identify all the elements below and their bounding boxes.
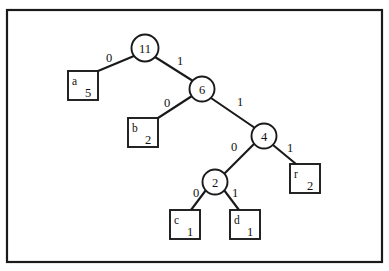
node-label-two: 2 xyxy=(212,176,218,190)
leaf-weight-r: 2 xyxy=(307,179,313,193)
node-label-root: 11 xyxy=(139,42,151,56)
edge-label-six-right: 1 xyxy=(237,95,243,109)
leaf-node-d: d 1 xyxy=(230,210,260,239)
internal-node-six: 6 xyxy=(190,77,215,102)
leaf-weight-b: 2 xyxy=(145,133,151,147)
leaf-weight-c: 1 xyxy=(187,225,193,239)
edge-label-six-left: 0 xyxy=(164,96,170,110)
tree-diagram-canvas: a 5 b 2 r 2 c 1 d 1 xyxy=(0,0,389,271)
leaf-symbol-d: d xyxy=(234,214,240,226)
node-label-four: 4 xyxy=(261,130,268,144)
leaf-symbol-a: a xyxy=(72,75,77,87)
leaf-node-r: r 2 xyxy=(290,164,320,193)
huffman-tree-figure: a 5 b 2 r 2 c 1 d 1 xyxy=(0,0,389,271)
edge-label-two-right: 1 xyxy=(232,186,238,200)
leaf-weight-a: 5 xyxy=(85,86,91,100)
internal-node-four: 4 xyxy=(252,124,277,149)
edge-label-two-left: 0 xyxy=(193,186,199,200)
leaf-weight-d: 1 xyxy=(247,225,253,239)
leaf-node-b: b 2 xyxy=(128,118,158,147)
leaf-symbol-b: b xyxy=(132,122,138,134)
edge-label-four-left: 0 xyxy=(231,140,237,154)
edge-label-four-right: 1 xyxy=(287,141,293,155)
leaf-symbol-c: c xyxy=(174,214,179,226)
node-label-six: 6 xyxy=(199,83,205,97)
leaf-node-c: c 1 xyxy=(170,210,200,239)
edge-label-root-left: 0 xyxy=(106,51,112,65)
leaf-node-a: a 5 xyxy=(68,71,98,100)
internal-node-two: 2 xyxy=(203,170,228,195)
leaf-symbol-r: r xyxy=(294,168,298,180)
internal-node-root: 11 xyxy=(132,35,159,62)
edge-label-root-right: 1 xyxy=(177,54,183,68)
